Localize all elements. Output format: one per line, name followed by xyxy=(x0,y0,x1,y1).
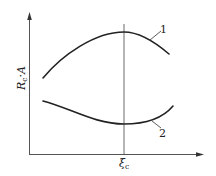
x-axis-arrow-icon xyxy=(196,152,204,157)
curve-1 xyxy=(43,32,169,78)
curve-2-label: 2 xyxy=(159,127,166,140)
curve-2 xyxy=(43,101,173,124)
curve-1-label: 1 xyxy=(160,23,167,36)
x-tick-label-xi-c: ξc xyxy=(119,157,129,171)
y-axis-arrow-icon xyxy=(27,12,32,20)
y-axis-label: Rc·A xyxy=(15,66,29,91)
diagram: 1 2 Rc·A ξc xyxy=(0,0,216,176)
x-axis xyxy=(29,152,204,157)
